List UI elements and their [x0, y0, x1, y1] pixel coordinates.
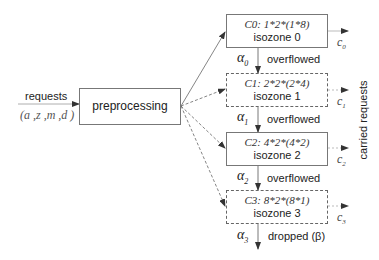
isozone-3-config: C3: 8*2*(8*1) [227, 194, 327, 207]
arrow-to-c1 [181, 89, 225, 106]
isozone-2-name: isozone 2 [227, 149, 327, 162]
arrow-to-c0 [181, 32, 225, 106]
alpha-0-label: α0 [237, 52, 248, 70]
alpha-2-label: α2 [237, 170, 248, 188]
isozone-0-config: C0: 1*2*(1*8) [227, 18, 327, 31]
isozone-1-config: C1: 2*2*(2*4) [227, 77, 327, 90]
flow-label-3: dropped (β) [268, 230, 325, 242]
flow-label-2: overflowed [267, 172, 320, 184]
isozone-2-config: C2: 4*2*(4*2) [227, 136, 327, 149]
flow-label-0: overflowed [267, 53, 320, 65]
request-tuple-label: (a ,z ,m ,d ) [20, 109, 74, 121]
carried-requests-label: carried requests [357, 75, 369, 165]
isozone-3-name: isozone 3 [227, 207, 327, 220]
carried-c0-label: c0 [337, 36, 346, 53]
isozone-1-name: isozone 1 [227, 90, 327, 103]
carried-c3-label: c3 [337, 211, 346, 228]
isozone-0-box: C0: 1*2*(1*8) isozone 0 [226, 14, 328, 48]
carried-c1-label: c1 [337, 95, 346, 112]
isozone-3-box: C3: 8*2*(8*1) isozone 3 [226, 190, 328, 224]
carried-c2-label: c2 [337, 153, 346, 170]
requests-label: requests [25, 90, 67, 102]
isozone-2-box: C2: 4*2*(4*2) isozone 2 [226, 132, 328, 166]
preprocessing-box: preprocessing [79, 88, 181, 125]
isozone-0-name: isozone 0 [227, 31, 327, 44]
arrow-to-c2 [181, 106, 225, 148]
alpha-3-label: α3 [237, 229, 248, 247]
flow-label-1: overflowed [267, 113, 320, 125]
preprocessing-label: preprocessing [92, 99, 167, 113]
isozone-1-box: C1: 2*2*(2*4) isozone 1 [226, 73, 328, 107]
alpha-1-label: α1 [237, 111, 248, 129]
arrow-to-c3 [181, 106, 225, 206]
